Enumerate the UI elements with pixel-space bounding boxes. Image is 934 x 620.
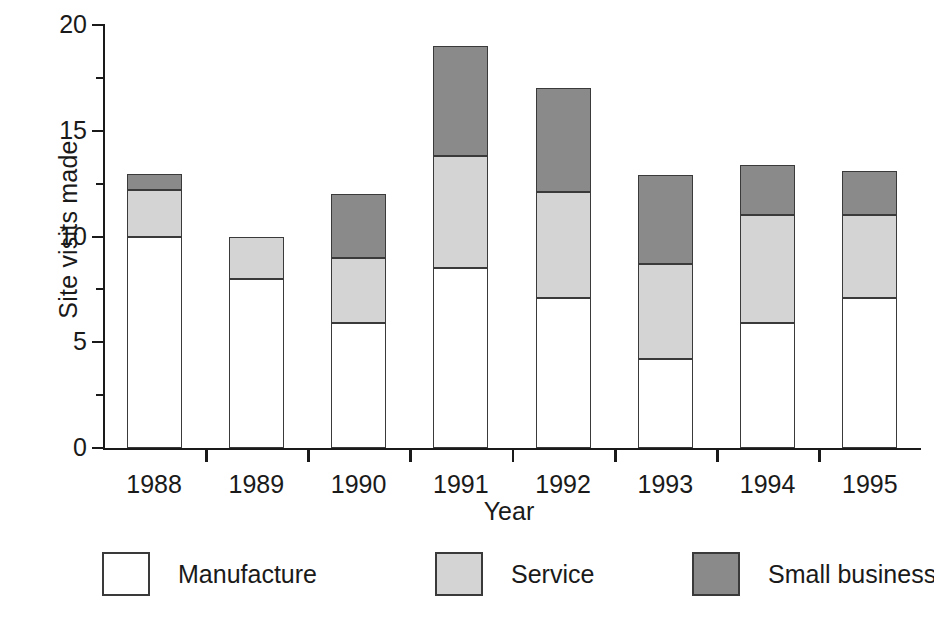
- legend-label-smallbiz: Small business: [768, 560, 934, 589]
- x-tick: [307, 450, 309, 462]
- bar-stack-1994[interactable]: [740, 25, 795, 448]
- legend-item-smallbiz[interactable]: Small business: [692, 552, 934, 596]
- bar-stack-1992[interactable]: [536, 25, 591, 448]
- bar-segment-service-1992[interactable]: [536, 192, 591, 298]
- bar-segment-smallbiz-1988[interactable]: [127, 174, 182, 190]
- bar-stack-1989[interactable]: [229, 25, 284, 448]
- bar-segment-manufacture-1994[interactable]: [740, 323, 795, 448]
- x-axis-title: Year: [0, 497, 934, 526]
- bar-segment-smallbiz-1995[interactable]: [842, 171, 897, 215]
- bar-segment-service-1990[interactable]: [331, 258, 386, 324]
- y-tick-major: [92, 236, 105, 238]
- bar-segment-manufacture-1991[interactable]: [433, 268, 488, 448]
- bar-segment-manufacture-1992[interactable]: [536, 298, 591, 448]
- bar-segment-smallbiz-1992[interactable]: [536, 88, 591, 192]
- x-tick: [716, 450, 718, 462]
- x-tick: [614, 450, 616, 462]
- x-tick: [512, 450, 514, 462]
- bar-segment-service-1994[interactable]: [740, 215, 795, 323]
- bar-segment-manufacture-1989[interactable]: [229, 279, 284, 448]
- bar-segment-manufacture-1990[interactable]: [331, 323, 386, 448]
- bar-segment-service-1991[interactable]: [433, 156, 488, 268]
- y-tick-label: 15: [27, 118, 87, 143]
- legend-swatch-smallbiz: [692, 552, 740, 596]
- bar-segment-service-1993[interactable]: [638, 264, 693, 359]
- bar-segment-manufacture-1995[interactable]: [842, 298, 897, 448]
- bar-segment-smallbiz-1991[interactable]: [433, 46, 488, 156]
- bar-segment-service-1989[interactable]: [229, 237, 284, 279]
- y-tick-major: [92, 24, 105, 26]
- legend-swatch-manufacture: [102, 552, 150, 596]
- x-tick-label-1995: 1995: [810, 472, 930, 497]
- legend-item-manufacture[interactable]: Manufacture: [102, 552, 317, 596]
- y-tick-minor: [96, 288, 105, 290]
- bar-stack-1991[interactable]: [433, 25, 488, 448]
- bar-stack-1990[interactable]: [331, 25, 386, 448]
- legend-label-manufacture: Manufacture: [178, 560, 317, 589]
- bar-stack-1993[interactable]: [638, 25, 693, 448]
- y-tick-label: 20: [27, 12, 87, 37]
- y-tick-minor: [96, 394, 105, 396]
- bar-stack-1988[interactable]: [127, 25, 182, 448]
- y-axis-tick-labels: 05101520: [25, 25, 87, 448]
- bar-segment-service-1988[interactable]: [127, 190, 182, 237]
- y-tick-major: [92, 447, 105, 449]
- y-tick-major: [92, 130, 105, 132]
- bar-segment-smallbiz-1994[interactable]: [740, 165, 795, 216]
- bar-segment-service-1995[interactable]: [842, 215, 897, 297]
- bar-segment-smallbiz-1990[interactable]: [331, 194, 386, 257]
- legend-label-service: Service: [511, 560, 594, 589]
- legend-item-service[interactable]: Service: [435, 552, 594, 596]
- y-tick-major: [92, 341, 105, 343]
- legend-swatch-service: [435, 552, 483, 596]
- x-tick: [409, 450, 411, 462]
- x-tick: [818, 450, 820, 462]
- bar-stack-1995[interactable]: [842, 25, 897, 448]
- y-tick-label: 0: [27, 435, 87, 460]
- y-tick-minor: [96, 183, 105, 185]
- y-tick-label: 5: [27, 329, 87, 354]
- y-tick-minor: [96, 77, 105, 79]
- bar-segment-smallbiz-1993[interactable]: [638, 175, 693, 264]
- bar-segment-manufacture-1988[interactable]: [127, 237, 182, 449]
- x-tick: [205, 450, 207, 462]
- x-axis-title-text: Year: [484, 497, 535, 525]
- plot-area: 05101520 1988198919901991199219931994199…: [103, 25, 921, 448]
- chart-legend: ManufactureServiceSmall business: [0, 552, 934, 608]
- y-tick-label: 10: [27, 224, 87, 249]
- chart-figure: Site visits made 05101520 19881989199019…: [0, 0, 934, 620]
- bar-segment-manufacture-1993[interactable]: [638, 359, 693, 448]
